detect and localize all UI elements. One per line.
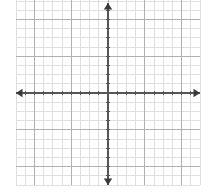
coordinate-plane-svg: [0, 0, 215, 192]
graph-paper-figure: [0, 0, 215, 192]
